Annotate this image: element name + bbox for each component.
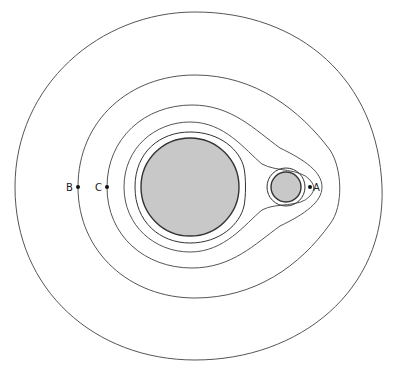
point-b-label: B [66, 182, 73, 193]
large-body [141, 138, 239, 236]
point-c-marker [105, 185, 109, 189]
point-a-label: A [313, 182, 320, 193]
point-c-label: C [95, 182, 102, 193]
small-body [271, 172, 301, 202]
point-b-marker [76, 185, 80, 189]
contour-diagram: A B C [0, 0, 399, 367]
point-a-marker [308, 185, 312, 189]
